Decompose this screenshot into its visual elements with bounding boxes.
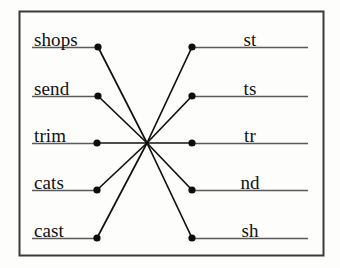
diagram-canvas: shopssendtrimcatscaststtstrndsh bbox=[0, 0, 340, 268]
left-node-dot-shops[interactable] bbox=[94, 43, 101, 50]
left-node-label-send: send bbox=[34, 79, 69, 98]
left-node-dot-cats[interactable] bbox=[93, 186, 100, 193]
left-node-label-cats: cats bbox=[34, 173, 64, 192]
edge-cats-to-hub bbox=[97, 143, 147, 190]
edge-lines bbox=[97, 47, 192, 238]
edge-cast-to-hub bbox=[97, 143, 147, 238]
right-node-dot-nd[interactable] bbox=[188, 186, 195, 193]
right-node-label-st: st bbox=[210, 30, 290, 49]
left-node-dot-send[interactable] bbox=[94, 92, 101, 99]
right-node-dot-tr[interactable] bbox=[188, 139, 195, 146]
right-node-label-tr: tr bbox=[210, 126, 290, 145]
left-node-label-cast: cast bbox=[34, 221, 64, 240]
edge-hub-to-st bbox=[147, 47, 192, 143]
left-node-dot-trim[interactable] bbox=[93, 139, 100, 146]
right-node-label-nd: nd bbox=[210, 173, 290, 192]
left-node-label-trim: trim bbox=[34, 126, 66, 145]
edge-shops-to-hub bbox=[98, 47, 147, 143]
hub-node-dot[interactable] bbox=[145, 141, 148, 144]
right-node-dot-st[interactable] bbox=[188, 43, 195, 50]
edge-hub-to-nd bbox=[147, 143, 192, 190]
edge-hub-to-sh bbox=[147, 143, 192, 238]
edge-hub-to-ts bbox=[147, 96, 192, 143]
right-node-label-sh: sh bbox=[210, 221, 290, 240]
right-node-dot-ts[interactable] bbox=[188, 92, 195, 99]
left-node-label-shops: shops bbox=[34, 30, 78, 49]
left-node-dot-cast[interactable] bbox=[93, 234, 100, 241]
edge-send-to-hub bbox=[98, 96, 147, 143]
right-node-dot-sh[interactable] bbox=[188, 234, 195, 241]
right-node-label-ts: ts bbox=[210, 79, 290, 98]
